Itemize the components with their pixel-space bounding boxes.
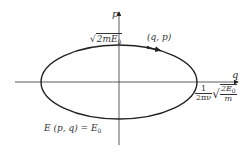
direction-arrow-icon bbox=[148, 48, 160, 51]
point-label: (q, p) bbox=[147, 33, 171, 42]
p-axis-label: p bbox=[112, 9, 118, 19]
p-intercept-label: √2mE0 bbox=[90, 35, 122, 45]
sqrt-icon: √ bbox=[90, 34, 96, 44]
q-axis-label: q bbox=[232, 70, 238, 80]
sqrt-icon: √ bbox=[212, 87, 220, 101]
q-intercept-label: 12πν√2E0m bbox=[195, 84, 237, 103]
energy-condition-label: E (p, q) = E0 bbox=[44, 124, 101, 134]
phase-space-diagram bbox=[0, 0, 250, 154]
